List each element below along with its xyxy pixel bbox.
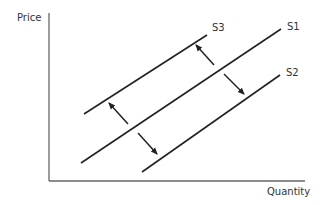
shift-arrow-down-left xyxy=(138,133,157,154)
supply-curve-s3 xyxy=(84,35,207,114)
y-axis-label: Price xyxy=(17,12,41,23)
shift-arrow-up-left xyxy=(109,103,128,124)
shift-arrow-down-right xyxy=(224,74,244,94)
supply-shift-diagram: Price Quantity S3 S1 S2 xyxy=(0,0,321,205)
s2-label: S2 xyxy=(286,67,299,78)
x-axis-label: Quantity xyxy=(267,186,310,197)
s1-label: S1 xyxy=(287,21,300,32)
supply-curve-s2 xyxy=(142,75,280,172)
s3-label: S3 xyxy=(212,22,225,33)
shift-arrow-up-right xyxy=(196,45,214,65)
